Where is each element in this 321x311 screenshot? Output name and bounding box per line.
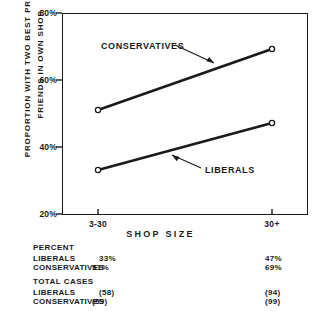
row-value-percent-liberals-left: 33%: [99, 254, 116, 263]
row-value-percent-liberals-right: 47%: [265, 254, 282, 263]
row-value-total-conservatives-left: (59): [92, 297, 107, 306]
row-value-percent-conservatives-left: 51%: [92, 263, 109, 272]
y-axis-title: PROPORTION WITH TWO BEST PRINTER FRIENDS…: [22, 0, 47, 160]
chart-page: 80% 60% 40% 20% PROPORTION WITH TWO BEST…: [0, 0, 321, 311]
row-label-percent-liberals: LIBERALS: [33, 254, 75, 263]
row-value-total-liberals-right: (94): [265, 288, 280, 297]
row-value-percent-conservatives-right: 69%: [265, 263, 282, 272]
table-heading-total-cases: TOTAL CASES: [33, 277, 94, 286]
data-table: PERCENT LIBERALS 33% 47% CONSERVATIVES 5…: [0, 243, 321, 311]
x-tick-30-plus: 30+: [242, 219, 302, 229]
x-tick-3-30: 3-30: [68, 219, 128, 229]
x-axis-title: SHOP SIZE: [0, 229, 321, 239]
row-value-total-liberals-left: (58): [99, 288, 114, 297]
series-label-conservatives: CONSERVATIVES: [101, 41, 184, 51]
row-label-total-liberals: LIBERALS: [33, 288, 75, 297]
plot-area: [62, 13, 308, 215]
row-value-total-conservatives-right: (99): [265, 297, 280, 306]
series-label-liberals: LIBERALS: [205, 165, 255, 175]
y-axis-title-line1: PROPORTION WITH TWO BEST PRINTER: [22, 0, 35, 160]
y-tick-20: 20%: [27, 210, 57, 219]
table-heading-percent: PERCENT: [33, 243, 74, 252]
y-axis-title-line2: FRIENDS IN OWN SHOP: [34, 0, 47, 160]
